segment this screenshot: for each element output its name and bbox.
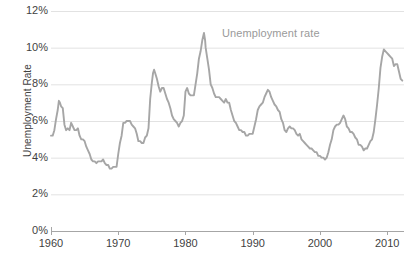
y-axis-tick-labels: 0%2%4%6%8%10%12%	[14, 0, 48, 261]
x-axis-tick-label: 1990	[231, 238, 275, 249]
unemployment-rate-line	[51, 33, 402, 169]
plot-area	[0, 0, 408, 261]
x-axis-tick-label: 1970	[96, 238, 140, 249]
x-axis-tick-label: 2000	[298, 238, 342, 249]
unemployment-rate-chart: Unemployment Rate 0%2%4%6%8%10%12% 19601…	[0, 0, 408, 261]
y-axis-tick-label: 0%	[14, 225, 48, 236]
y-axis-tick-label: 4%	[14, 152, 48, 163]
x-axis-tick-label: 1960	[29, 238, 73, 249]
y-axis-tick-label: 10%	[14, 42, 48, 53]
y-axis-tick-label: 8%	[14, 78, 48, 89]
y-axis-tick-label: 6%	[14, 115, 48, 126]
x-axis-tick-label: 2010	[365, 238, 408, 249]
series-annotation-label: Unemployment rate	[222, 27, 320, 39]
x-axis-tick-label: 1980	[163, 238, 207, 249]
y-axis-tick-label: 12%	[14, 5, 48, 16]
y-axis-tick-label: 2%	[14, 188, 48, 199]
